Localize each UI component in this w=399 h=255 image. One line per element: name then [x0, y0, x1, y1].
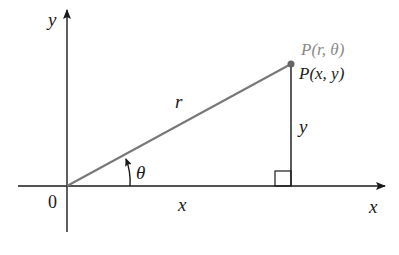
y-axis-label: y: [46, 9, 57, 30]
radius-label: r: [175, 91, 183, 112]
radius-line: [67, 64, 291, 186]
vertical-segment-label: y: [297, 116, 308, 137]
cartesian-point-label: P(x, y): [298, 64, 345, 83]
origin-label: 0: [48, 192, 57, 212]
point-p: [288, 61, 295, 68]
x-axis-label: x: [368, 196, 378, 217]
horizontal-segment-label: x: [177, 194, 187, 215]
angle-arc: [126, 159, 130, 186]
right-angle-marker: [275, 171, 291, 186]
polar-coordinates-diagram: y x 0 r x y θ P(r, θ) P(x, y): [0, 0, 399, 255]
polar-point-label: P(r, θ): [300, 40, 345, 59]
angle-label: θ: [136, 162, 145, 183]
